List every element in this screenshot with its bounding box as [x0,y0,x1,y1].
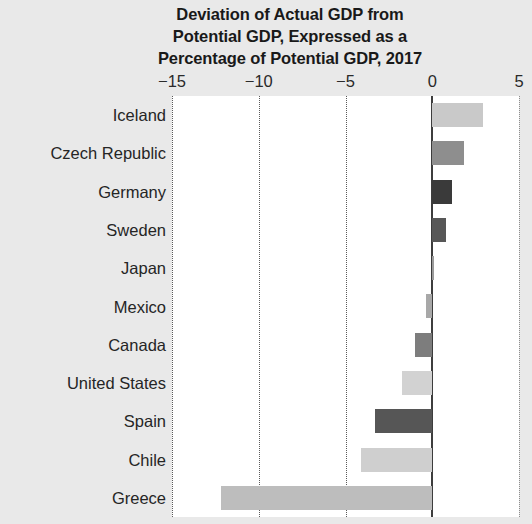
gdp-deviation-chart: Deviation of Actual GDP from Potential G… [0,0,532,524]
bar-row [172,287,519,325]
x-tick-label: −5 [336,72,355,91]
category-label-mexico: Mexico [0,297,166,316]
category-label-united-states: United States [0,374,166,393]
bar-sweden[interactable] [432,218,446,242]
category-label-germany: Germany [0,182,166,201]
gridline [519,96,520,517]
bar-row [172,479,519,517]
category-label-chile: Chile [0,450,166,469]
bar-united-states[interactable] [402,371,432,395]
bar-row [172,364,519,402]
category-label-sweden: Sweden [0,220,166,239]
x-tick-label: −10 [245,72,273,91]
bar-czech-republic[interactable] [432,141,464,165]
bar-greece[interactable] [221,486,433,510]
bar-germany[interactable] [432,180,452,204]
bar-row [172,134,519,172]
category-label-iceland: Iceland [0,106,166,125]
x-tick-label: −15 [158,72,186,91]
bar-mexico[interactable] [426,294,432,318]
x-tick-label: 5 [514,72,523,91]
category-label-spain: Spain [0,412,166,431]
bar-row [172,402,519,440]
category-label-czech-republic: Czech Republic [0,144,166,163]
bar-spain[interactable] [375,409,432,433]
x-axis-tick-labels: −15−10−505 [0,72,532,94]
plot-area [172,96,519,517]
category-label-japan: Japan [0,259,166,278]
bar-row [172,440,519,478]
category-label-greece: Greece [0,488,166,507]
y-axis-category-labels: IcelandCzech RepublicGermanySwedenJapanM… [0,96,166,517]
x-tick-label: 0 [428,72,437,91]
bar-canada[interactable] [415,333,432,357]
bar-iceland[interactable] [432,103,482,127]
bar-row [172,249,519,287]
category-label-canada: Canada [0,335,166,354]
bar-chile[interactable] [361,448,432,472]
bar-japan[interactable] [432,256,434,280]
bar-row [172,326,519,364]
chart-title: Deviation of Actual GDP from Potential G… [60,4,520,69]
bar-rows [172,96,519,517]
bar-row [172,96,519,134]
bar-row [172,173,519,211]
bar-row [172,211,519,249]
